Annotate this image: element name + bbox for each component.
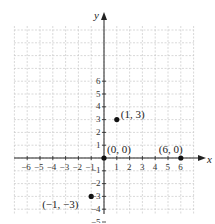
point-label: (6, 0) bbox=[159, 144, 183, 155]
point-label: (0, 0) bbox=[107, 144, 131, 155]
point-label: (−1, −3) bbox=[42, 199, 78, 210]
x-tick-label: 4 bbox=[153, 163, 158, 172]
y-tick-label: 3 bbox=[96, 115, 101, 124]
data-point bbox=[101, 155, 106, 160]
x-tick-label: −2 bbox=[72, 163, 82, 172]
data-point bbox=[178, 155, 183, 160]
x-tick-label: 2 bbox=[127, 163, 132, 172]
x-tick-label: −4 bbox=[47, 163, 57, 172]
y-tick-label: −5 bbox=[91, 218, 101, 224]
x-tick-label: −3 bbox=[60, 163, 70, 172]
x-tick-label: −5 bbox=[34, 163, 44, 172]
y-tick-label: 6 bbox=[96, 77, 101, 86]
x-tick-label: −6 bbox=[21, 163, 31, 172]
x-tick-label: 6 bbox=[178, 163, 183, 172]
x-tick-label: 1 bbox=[114, 163, 119, 172]
x-tick-label: 3 bbox=[140, 163, 145, 172]
x-axis-label: x bbox=[207, 154, 212, 165]
x-tick-label: 5 bbox=[166, 163, 171, 172]
y-tick-label: 2 bbox=[96, 128, 101, 137]
y-tick-label: 1 bbox=[96, 141, 101, 150]
x-axis-arrow-icon bbox=[198, 155, 206, 161]
y-axis-arrow-icon bbox=[101, 12, 107, 20]
y-tick-label: 4 bbox=[96, 102, 101, 111]
y-axis-label: y bbox=[94, 10, 99, 21]
y-tick-label: −1 bbox=[91, 166, 101, 175]
y-tick-label: 5 bbox=[96, 90, 101, 99]
y-tick-label: −4 bbox=[91, 205, 101, 214]
data-point bbox=[114, 117, 119, 122]
y-tick-label: −2 bbox=[91, 179, 101, 188]
y-tick-label: −3 bbox=[91, 192, 101, 201]
point-label: (1, 3) bbox=[121, 109, 145, 120]
coordinate-plane bbox=[0, 0, 215, 223]
